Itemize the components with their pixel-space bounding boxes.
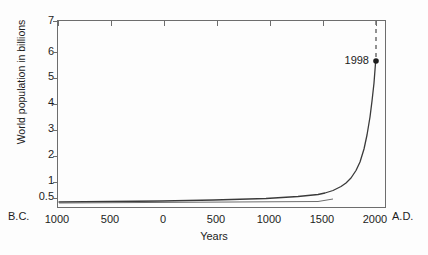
y-tick-label-1: 1	[26, 175, 54, 186]
x-tick-label-ad-1000: 1000	[239, 213, 299, 225]
x-axis-era-bc: B.C.	[8, 210, 29, 222]
x-tick-label-bc-500: 500	[80, 213, 140, 225]
x-tick-mark-ad-2000	[376, 21, 377, 26]
x-tick-mark-ad-1000	[270, 21, 271, 26]
y-tick-label-6: 6	[26, 46, 54, 57]
y-tick-label-4: 4	[26, 97, 54, 108]
x-tick-label-0: 0	[133, 213, 193, 225]
x-tick-label-ad-500: 500	[186, 213, 246, 225]
x-tick-label-bc-1000: 1000	[27, 213, 87, 225]
y-tick-label-0.5: 0.5	[18, 191, 54, 202]
x-tick-mark-0	[164, 21, 165, 26]
world-population-chart: World population in billions 7 6 5 4 3 2…	[0, 0, 428, 255]
y-tick-label-5: 5	[26, 71, 54, 82]
population-curve-svg	[58, 21, 387, 209]
data-point-1998-marker	[373, 58, 379, 64]
x-axis-era-ad: A.D.	[392, 210, 413, 222]
x-tick-label-ad-1500: 1500	[292, 213, 352, 225]
x-tick-mark-bc-500	[111, 21, 112, 26]
population-curve	[59, 62, 376, 202]
plot-area	[57, 20, 386, 208]
x-tick-mark-ad-1500	[323, 21, 324, 26]
y-tick-label-7: 7	[26, 15, 54, 26]
y-tick-label-2: 2	[26, 149, 54, 160]
x-axis-title: Years	[0, 230, 428, 242]
y-tick-label-3: 3	[26, 123, 54, 134]
annotation-label-1998: 1998	[331, 54, 369, 66]
x-tick-mark-ad-500	[217, 21, 218, 26]
x-tick-mark-bc-1000	[58, 21, 59, 26]
